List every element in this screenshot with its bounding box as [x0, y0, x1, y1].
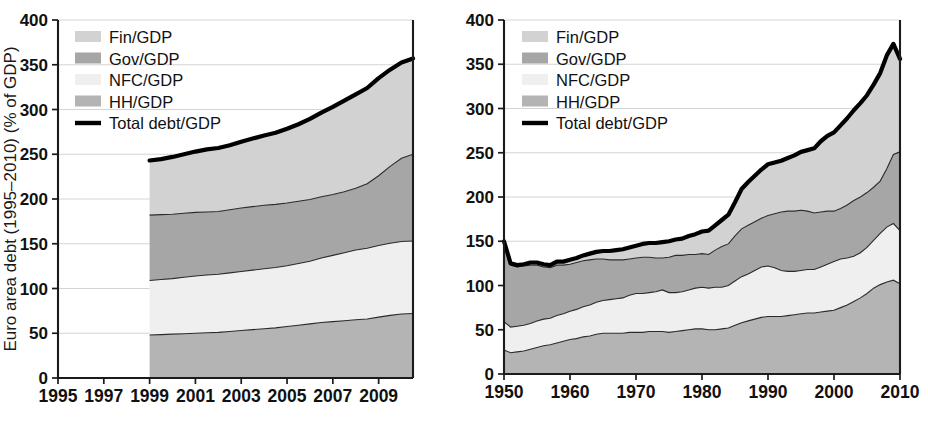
x-tick-label: 2010 [881, 382, 920, 402]
legend-label: NFC/GDP [109, 71, 183, 89]
y-tick-label: 50 [29, 324, 48, 343]
y-tick-label: 250 [20, 145, 48, 164]
x-axis-ticks: 1950196019701980199020002010 [485, 374, 920, 402]
y-tick-label: 100 [20, 280, 48, 299]
legend-swatch [522, 96, 548, 107]
x-tick-label: 2000 [815, 382, 854, 402]
euro-area-debt-panel: Euro area debt (1995–2010) (% of GDP)050… [0, 0, 464, 425]
debt-charts-figure: Euro area debt (1995–2010) (% of GDP)050… [0, 0, 928, 425]
y-tick-label: 100 [466, 277, 494, 296]
legend-label: Total debt/GDP [109, 114, 221, 132]
x-tick-label: 1950 [485, 382, 524, 402]
legend-swatch [75, 53, 101, 64]
legend-swatch [75, 31, 101, 42]
euro-area-debt-chart: Euro area debt (1995–2010) (% of GDP)050… [0, 0, 464, 425]
y-tick-label: 200 [466, 188, 494, 207]
x-tick-label: 1999 [130, 386, 169, 406]
y-tick-label: 400 [466, 11, 494, 30]
y-tick-label: 350 [466, 55, 494, 74]
x-tick-label: 1960 [551, 382, 590, 402]
x-tick-label: 1990 [749, 382, 788, 402]
legend-label: NFC/GDP [556, 71, 630, 89]
legend-label: Gov/GDP [556, 50, 627, 68]
y-tick-label: 400 [20, 11, 48, 30]
legend-label: Total debt/GDP [556, 114, 668, 132]
stacked-areas [150, 58, 413, 378]
x-tick-label: 2007 [313, 386, 352, 406]
legend-swatch [75, 96, 101, 107]
x-tick-label: 2009 [359, 386, 398, 406]
y-tick-label: 150 [466, 232, 494, 251]
x-axis-ticks: 19951997199920012003200520072009 [39, 378, 399, 406]
legend: Fin/GDPGov/GDPNFC/GDPHH/GDPTotal debt/GD… [522, 28, 668, 132]
legend-label: HH/GDP [556, 93, 620, 111]
x-tick-label: 2003 [222, 386, 261, 406]
legend-label: Fin/GDP [109, 28, 172, 46]
legend-swatch [522, 74, 548, 85]
legend: Fin/GDPGov/GDPNFC/GDPHH/GDPTotal debt/GD… [75, 28, 221, 132]
x-tick-label: 2005 [268, 386, 307, 406]
us-debt-chart: US debt (1950–2010) (in % of GDP)0501001… [464, 0, 928, 425]
legend-swatch [522, 31, 548, 42]
us-debt-panel: US debt (1950–2010) (in % of GDP)0501001… [464, 0, 928, 425]
y-tick-label: 50 [475, 321, 494, 340]
x-tick-label: 1980 [683, 382, 722, 402]
y-axis-ticks: 050100150200250300350400 [20, 11, 58, 388]
y-tick-label: 300 [466, 100, 494, 119]
legend-label: Gov/GDP [109, 50, 180, 68]
y-tick-label: 250 [466, 144, 494, 163]
x-tick-label: 1995 [39, 386, 78, 406]
y-axis-ticks: 050100150200250300350400 [466, 11, 504, 384]
y-axis-title: Euro area debt (1995–2010) (% of GDP) [1, 46, 20, 351]
y-tick-label: 300 [20, 101, 48, 120]
legend-swatch [75, 74, 101, 85]
x-tick-label: 2001 [176, 386, 215, 406]
legend-swatch [522, 53, 548, 64]
y-tick-label: 150 [20, 235, 48, 254]
legend-label: Fin/GDP [556, 28, 619, 46]
y-tick-label: 200 [20, 190, 48, 209]
x-tick-label: 1970 [617, 382, 656, 402]
x-tick-label: 1997 [84, 386, 123, 406]
y-tick-label: 350 [20, 56, 48, 75]
legend-label: HH/GDP [109, 93, 173, 111]
